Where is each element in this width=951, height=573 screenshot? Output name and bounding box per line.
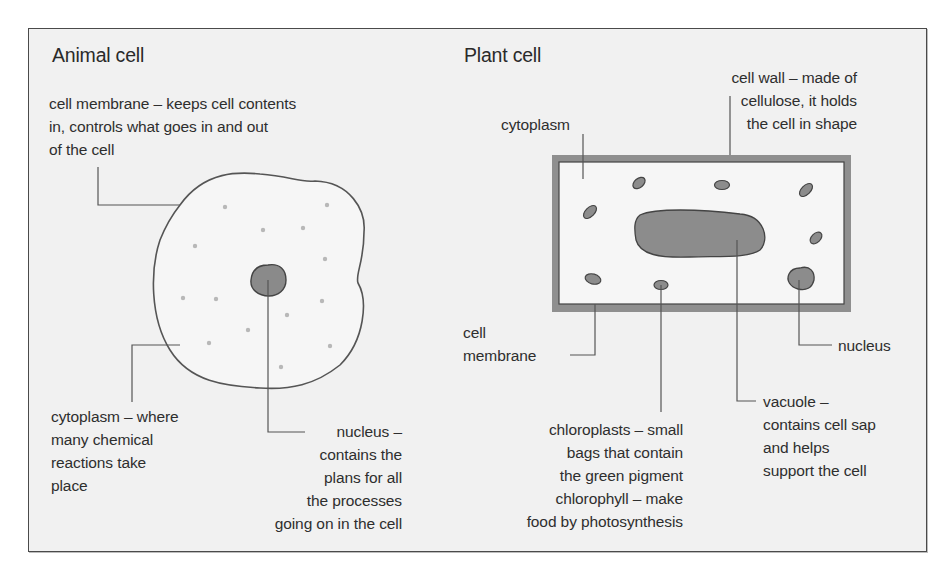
plant-cell-title: Plant cell — [464, 43, 541, 67]
plant-cell — [552, 96, 851, 412]
animal-cell-title: Animal cell — [52, 43, 144, 67]
plant-nucleus-label: nucleus — [838, 334, 891, 357]
plant-vacuole — [635, 210, 765, 257]
plant-cytoplasm-label: cytoplasm — [501, 113, 570, 136]
animal-cell — [98, 167, 364, 432]
plant-nucleus — [788, 267, 814, 289]
